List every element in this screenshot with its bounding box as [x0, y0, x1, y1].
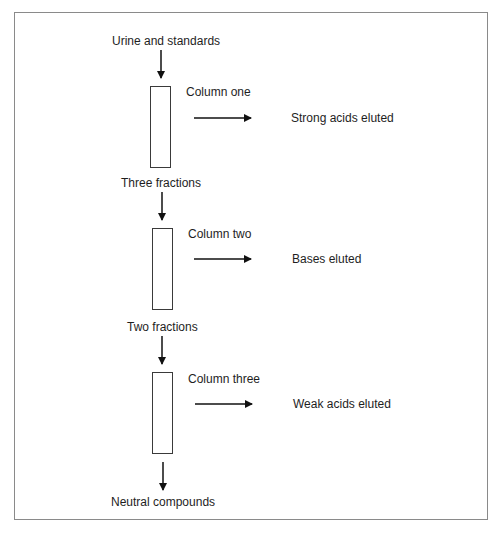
column-two-label: Column two [188, 227, 251, 241]
column-one-box [150, 86, 171, 168]
column-two-box [152, 228, 173, 310]
strong-acids-label: Strong acids eluted [291, 111, 394, 125]
three-fractions-label: Three fractions [121, 176, 201, 190]
bases-label: Bases eluted [292, 252, 361, 266]
column-three-label: Column three [188, 372, 260, 386]
weak-acids-label: Weak acids eluted [293, 397, 391, 411]
column-three-box [152, 372, 173, 454]
input-label: Urine and standards [112, 34, 220, 48]
column-one-label: Column one [186, 85, 251, 99]
neutral-compounds-label: Neutral compounds [111, 495, 215, 509]
two-fractions-label: Two fractions [127, 320, 198, 334]
arrows-layer [0, 0, 499, 534]
